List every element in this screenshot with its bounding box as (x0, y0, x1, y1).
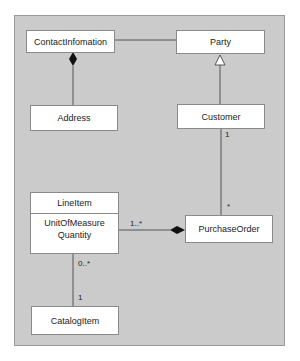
class-customer[interactable]: Customer (177, 104, 265, 129)
class-party[interactable]: Party (176, 30, 265, 54)
class-attributes: UnitOfMeasure Quantity (31, 214, 118, 241)
class-name: Customer (178, 105, 264, 128)
generalization-triangle-icon (215, 55, 225, 65)
class-name: CatalogItem (32, 307, 118, 334)
class-catalog-item[interactable]: CatalogItem (31, 306, 119, 335)
multiplicity-label: * (227, 202, 230, 211)
class-name: Address (31, 106, 117, 130)
class-name: ContactInfomation (27, 31, 114, 52)
multiplicity-label: 1 (78, 293, 82, 302)
attribute-quantity: Quantity (31, 229, 118, 241)
composition-diamond-icon (69, 52, 77, 66)
multiplicity-label: 1..* (130, 219, 142, 228)
class-address[interactable]: Address (30, 105, 118, 131)
class-name: Party (177, 31, 264, 53)
class-name: LineItem (31, 193, 118, 214)
composition-diamond-icon (170, 226, 185, 234)
multiplicity-label: 1 (225, 130, 229, 139)
multiplicity-label: 0..* (78, 259, 90, 268)
class-name: PurchaseOrder (186, 216, 272, 242)
class-purchase-order[interactable]: PurchaseOrder (185, 215, 273, 243)
class-line-item[interactable]: LineItem UnitOfMeasure Quantity (30, 192, 119, 254)
attribute-unit-of-measure: UnitOfMeasure (31, 217, 118, 229)
class-contact-infomation[interactable]: ContactInfomation (26, 30, 115, 53)
